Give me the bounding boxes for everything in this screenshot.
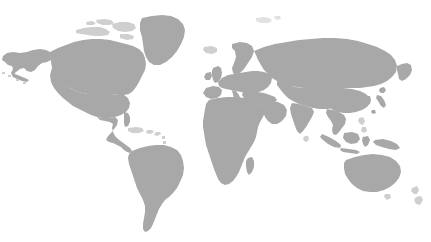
world-map-container bbox=[0, 0, 431, 242]
world-map-graphic bbox=[0, 0, 431, 242]
